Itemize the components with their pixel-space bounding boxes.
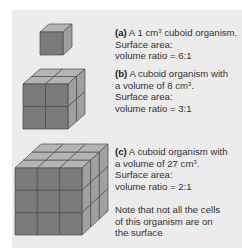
caption-b-period: . bbox=[191, 80, 194, 91]
caption-b-volume: a volume of 8 cm bbox=[115, 80, 188, 91]
caption-c: (c) A cuboid organism with a volume of 2… bbox=[115, 146, 240, 192]
caption-b-label: (b) bbox=[115, 68, 127, 79]
caption-a-label: (a) bbox=[115, 27, 127, 38]
caption-a-text-end: cuboid organism. bbox=[162, 27, 238, 38]
cube-3x3-icon bbox=[15, 144, 108, 235]
caption-b-ratio: volume ratio = 3:1 bbox=[115, 103, 240, 115]
caption-a: (a) A 1 cm3 cuboid organism. Surface are… bbox=[115, 27, 240, 62]
caption-c-ratio: volume ratio = 2:1 bbox=[115, 181, 240, 193]
caption-c-volume: a volume of 27 cm bbox=[115, 158, 193, 169]
caption-a-ratio: volume ratio = 6:1 bbox=[115, 50, 240, 62]
caption-a-line2: Surface area: bbox=[115, 39, 240, 51]
caption-b: (b) A cuboid organism with a volume of 8… bbox=[115, 68, 240, 114]
caption-a-text: A 1 cm bbox=[127, 27, 158, 38]
caption-b-text: A cuboid organism with bbox=[127, 68, 228, 79]
note-line-1: Note that not all the cells bbox=[115, 204, 240, 216]
superscript: 3 bbox=[188, 81, 191, 87]
superscript: 3 bbox=[193, 159, 196, 165]
note-line-3: the surface bbox=[115, 227, 240, 239]
caption-c-label: (c) bbox=[115, 146, 127, 157]
cube-1x1-icon bbox=[40, 24, 72, 55]
note: Note that not all the cells of this orga… bbox=[115, 204, 240, 239]
cube-2x2-icon bbox=[23, 69, 85, 129]
note-line-2: of this organism are on bbox=[115, 216, 240, 228]
caption-b-line3: Surface area: bbox=[115, 91, 240, 103]
superscript: 3 bbox=[158, 28, 161, 34]
caption-c-period: . bbox=[197, 158, 200, 169]
caption-c-text: A cuboid organism with bbox=[127, 146, 228, 157]
caption-c-line3: Surface area: bbox=[115, 169, 240, 181]
